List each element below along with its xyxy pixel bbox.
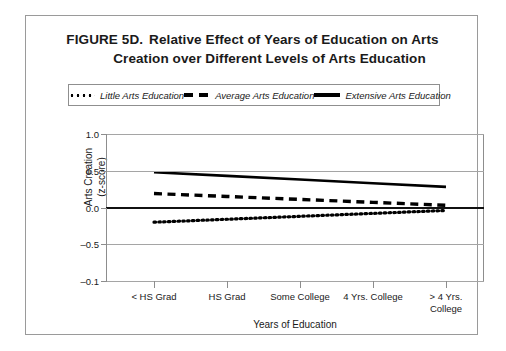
figure-title-line-1: Relative Effect of Years of Education on… <box>149 32 439 47</box>
legend-label-little-arts-education: Little Arts Education <box>100 90 184 101</box>
y-tick-label: 0.5 <box>59 165 99 176</box>
y-tick-mark <box>101 244 107 245</box>
figure-frame: FIGURE 5D.Relative Effect of Years of Ed… <box>25 15 478 335</box>
x-tick-mark <box>227 281 228 288</box>
x-tick-mark <box>373 281 374 288</box>
y-axis-title-line-1: Arts Creation <box>83 148 94 206</box>
x-tick-mark <box>154 281 155 288</box>
gridline <box>106 244 484 245</box>
y-tick-label: 0.0 <box>59 202 99 213</box>
figure-number-label: FIGURE 5D. <box>66 32 143 47</box>
x-tick-label: Some College <box>261 291 339 303</box>
x-tick-label: 4 Yrs. College <box>334 291 412 303</box>
x-axis-title: Years of Education <box>106 319 484 330</box>
chart-legend: Little Arts Education Average Arts Educa… <box>68 84 440 106</box>
x-tick-label: HS Grad <box>188 291 266 303</box>
x-tick-mark <box>300 281 301 288</box>
x-tick-label: < HS Grad <box>115 291 193 303</box>
legend-item-little-arts-education: Little Arts Education <box>69 90 184 101</box>
y-tick-label: 1.0 <box>59 129 99 140</box>
y-tick-label: –0.5 <box>59 239 99 250</box>
legend-item-extensive-arts-education: Extensive Arts Education <box>314 90 450 101</box>
y-tick-mark <box>101 134 107 135</box>
zero-gridline <box>106 207 484 210</box>
dashed-line-swatch-icon <box>184 93 210 97</box>
y-tick-mark <box>101 171 107 172</box>
solid-line-swatch-icon <box>314 93 340 97</box>
x-axis-title-text: Years of Education <box>253 319 337 330</box>
figure-title: FIGURE 5D.Relative Effect of Years of Ed… <box>26 30 479 68</box>
plot-area: 1.00.50.0–0.5–0.1 < HS GradHS GradSome C… <box>106 134 484 281</box>
dotted-line-swatch-icon <box>69 94 95 97</box>
legend-item-average-arts-education: Average Arts Education <box>184 90 314 101</box>
legend-label-extensive-arts-education: Extensive Arts Education <box>345 90 450 101</box>
x-tick-label: > 4 Yrs. College <box>407 291 485 315</box>
gridline <box>106 134 484 135</box>
x-tick-mark <box>446 281 447 288</box>
legend-label-average-arts-education: Average Arts Education <box>215 90 314 101</box>
y-tick-label: –0.1 <box>59 276 99 287</box>
figure-title-line-2: Creation over Different Levels of Arts E… <box>26 49 479 68</box>
y-tick-mark <box>101 208 107 209</box>
gridline <box>106 171 484 172</box>
